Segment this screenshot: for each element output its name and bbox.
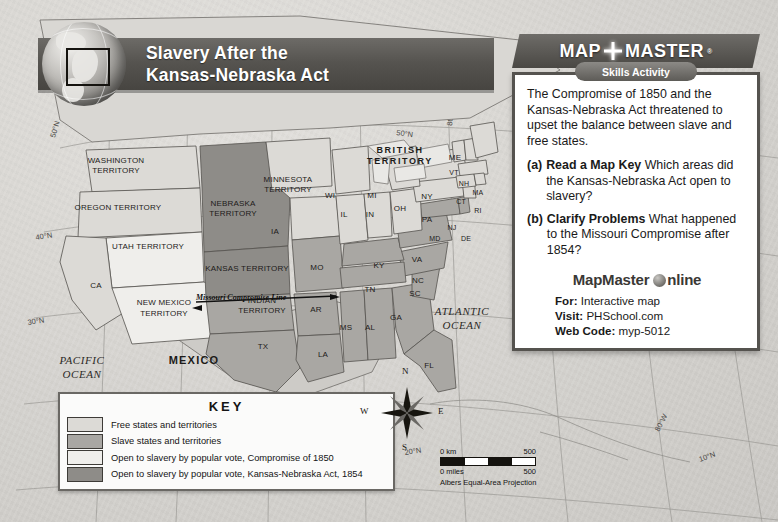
question-b-body: Clarify Problems What happened to the Mi…	[547, 212, 747, 259]
state-label-oh: OH	[394, 204, 406, 213]
mapmaster-body: The Compromise of 1850 and the Kansas-Ne…	[512, 72, 760, 351]
globe-o-icon	[653, 274, 666, 287]
territory-label-washington-2: TERRITORY	[92, 166, 140, 175]
state-label-me: ME	[449, 153, 461, 162]
key-swatch-free	[67, 417, 103, 432]
territory-label-oregon: OREGON TERRITORY	[75, 203, 162, 212]
scale-km-zero: 0 km	[440, 447, 456, 456]
globe-icon	[42, 22, 126, 106]
territory-label-nebraska-2: TERRITORY	[209, 209, 257, 218]
map-key: KEY Free states and territories Slave st…	[58, 392, 395, 491]
state-label-fl: FL	[424, 361, 434, 370]
scale-miles-zero: 0 miles	[440, 467, 464, 476]
territory-label-utah: UTAH TERRITORY	[112, 242, 184, 251]
state-label-ca: CA	[90, 281, 102, 290]
online-row-for: For: Interactive map	[527, 293, 747, 308]
state-label-ri: RI	[474, 207, 481, 214]
state-label-ky: KY	[373, 261, 385, 270]
title-line-1: Slavery After the	[146, 42, 329, 64]
territory-label-kansas: KANSAS TERRITORY	[205, 264, 289, 273]
mapmaster-online-word: nline	[667, 271, 701, 288]
map-key-title: KEY	[67, 399, 386, 414]
state-label-al: AL	[365, 323, 376, 332]
scale-miles-labels: 0 miles 500	[440, 467, 536, 476]
state-label-pa: PA	[422, 215, 433, 224]
question-b: (b) Clarify Problems What happened to th…	[527, 212, 747, 259]
territory-label-minnesota: MINNESOTA	[264, 175, 313, 184]
state-label-ar: AR	[310, 305, 322, 314]
state-label-ny: NY	[421, 192, 433, 201]
territory-label-indian-2: TERRITORY	[238, 306, 286, 315]
online-row-webcode-value: myp-5012	[619, 324, 671, 337]
compass-label-east: E	[438, 406, 444, 416]
key-label-kansas-nebraska-1854: Open to slavery by popular vote, Kansas-…	[111, 469, 363, 479]
key-item-slave: Slave states and territories	[67, 434, 386, 449]
question-a-skill: Read a Map Key	[546, 158, 641, 172]
state-label-de: DE	[461, 235, 471, 242]
compass-label-south: S	[402, 442, 407, 452]
online-row-visit-label: Visit:	[555, 309, 583, 322]
compass-rose-icon	[372, 378, 442, 448]
scale-km-max: 500	[523, 447, 536, 456]
territory-label-new-mexico-2: TERRITORY	[140, 309, 188, 318]
title-line-2: Kansas-Nebraska Act	[146, 64, 329, 86]
territory-label-minnesota-2: TERRITORY	[264, 185, 312, 194]
mapmaster-brand-left: MAP	[559, 41, 601, 62]
compass-label-west: W	[360, 406, 369, 416]
online-row-webcode-label: Web Code:	[555, 324, 615, 337]
key-label-compromise-1850: Open to slavery by popular vote, Comprom…	[111, 453, 334, 463]
globe-focus-box	[66, 48, 110, 86]
state-label-va: VA	[412, 255, 423, 264]
scale-miles-max: 500	[523, 467, 536, 476]
territory-label-washington: WASHINGTON	[88, 156, 145, 165]
question-a-marker: (a)	[527, 158, 542, 205]
state-label-md: MD	[429, 235, 440, 242]
online-row-for-label: For:	[555, 294, 578, 307]
mapmaster-brand: MAP MASTER ®	[559, 41, 712, 62]
question-a: (a) Read a Map Key Which areas did the K…	[527, 158, 747, 205]
compass-label-north: N	[402, 366, 409, 376]
online-row-visit-value[interactable]: PHSchool.com	[586, 309, 663, 322]
state-label-mi: MI	[367, 191, 376, 200]
key-item-compromise-1850: Open to slavery by popular vote, Comprom…	[67, 450, 386, 465]
compass-star-icon	[604, 42, 622, 60]
ocean-label-atlantic-2: OCEAN	[442, 319, 481, 331]
map-page: 120°W 110°W 100°W 90°W 80°W 80°W 50°N 50…	[0, 0, 778, 522]
state-label-in: IN	[366, 210, 374, 219]
state-label-sc: SC	[409, 289, 421, 298]
state-label-tn: TN	[364, 285, 375, 294]
online-row-for-value: Interactive map	[581, 294, 660, 307]
mapmaster-brand-right: MASTER	[625, 41, 704, 62]
state-label-tx: TX	[258, 342, 269, 351]
state-label-ga: GA	[390, 313, 402, 322]
ocean-label-pacific: PACIFIC	[59, 354, 105, 366]
country-label-mexico: MEXICO	[169, 354, 220, 366]
key-item-free: Free states and territories	[67, 417, 386, 432]
state-label-ct: CT	[456, 198, 466, 205]
territory-label-nebraska: NEBRASKA	[210, 199, 256, 208]
mapmaster-intro: The Compromise of 1850 and the Kansas-Ne…	[527, 87, 747, 149]
registered-mark: ®	[707, 48, 713, 55]
ocean-label-atlantic: ATLANTIC	[434, 305, 490, 317]
skills-activity-badge: Skills Activity	[575, 62, 697, 81]
compass-rose: N E S W	[372, 378, 442, 448]
state-label-ma: MA	[473, 189, 484, 196]
state-label-la: LA	[318, 350, 329, 359]
state-label-il: IL	[340, 210, 347, 219]
projection-label: Albers Equal-Area Projection	[440, 478, 536, 487]
country-label-british-territory: BRITISH	[376, 145, 423, 155]
online-row-webcode: Web Code: myp-5012	[527, 323, 747, 338]
mapmaster-online-brand: MapMaster	[573, 271, 650, 288]
territory-label-new-mexico: NEW MEXICO	[137, 298, 191, 307]
state-label-mo: MO	[310, 263, 323, 272]
mapmaster-panel: MAP MASTER ® Skills Activity The Comprom…	[512, 34, 760, 351]
question-a-body: Read a Map Key Which areas did the Kansa…	[546, 158, 747, 205]
key-label-slave: Slave states and territories	[111, 436, 221, 446]
state-label-vt: VT	[449, 169, 459, 176]
key-swatch-kansas-nebraska-1854	[67, 467, 103, 482]
state-label-nc: NC	[412, 276, 424, 285]
missouri-compromise-line-label: Missouri Compromise Line	[195, 293, 287, 302]
key-swatch-slave	[67, 434, 103, 449]
scale-km-labels: 0 km 500	[440, 447, 536, 456]
state-label-wi: WI	[325, 191, 335, 200]
